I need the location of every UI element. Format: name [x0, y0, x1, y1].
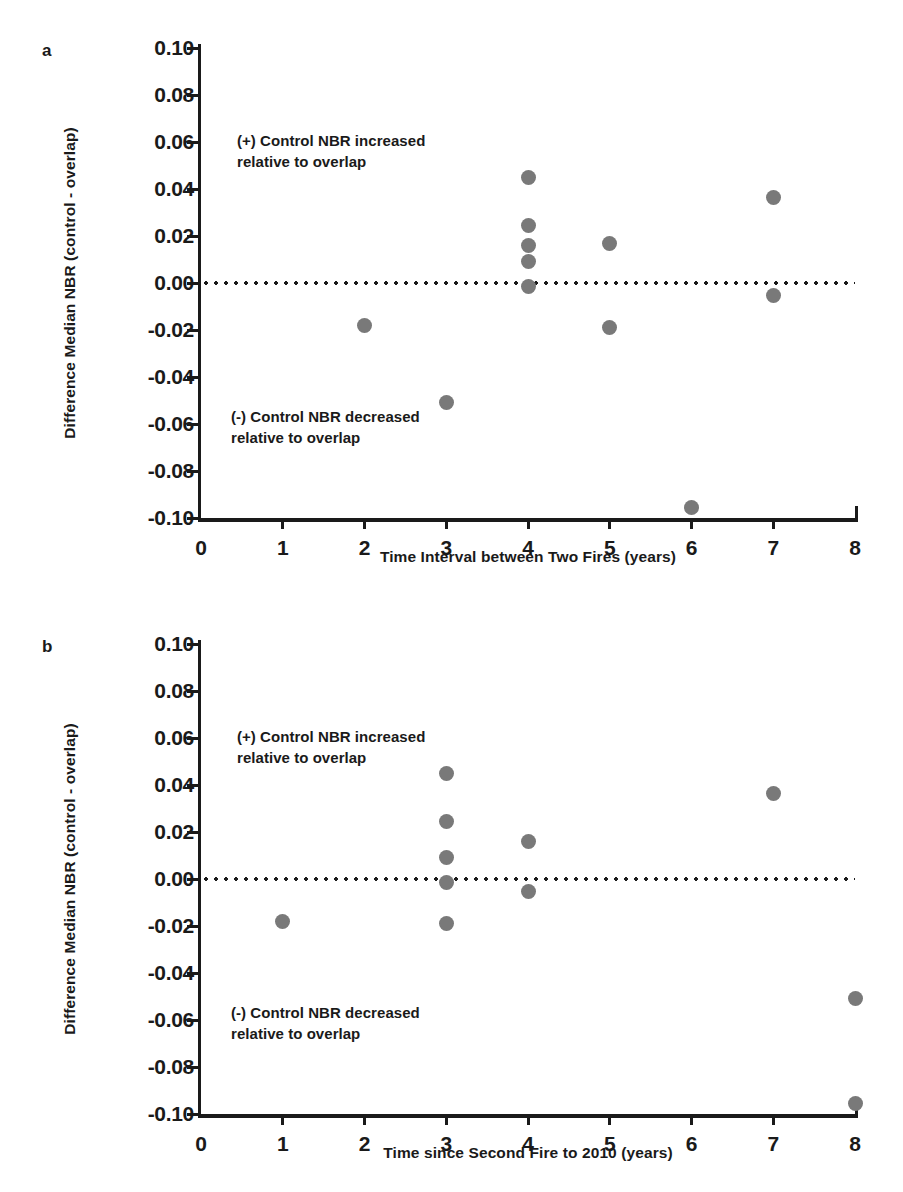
- y-tick-label-b: -0.08: [148, 1055, 194, 1079]
- data-point: [521, 254, 536, 269]
- data-point: [521, 218, 536, 233]
- data-point: [439, 875, 454, 890]
- data-point: [439, 814, 454, 829]
- x-axis-end-cap-a: [855, 506, 858, 520]
- data-point: [439, 916, 454, 931]
- y-tick-label-a: 0.00: [154, 271, 194, 295]
- data-point: [439, 395, 454, 410]
- data-point: [848, 991, 863, 1006]
- x-tick-b: [363, 1114, 366, 1125]
- annotation-positive-a: (+) Control NBR increased relative to ov…: [237, 130, 425, 173]
- x-tick-label-b: 6: [686, 1132, 698, 1156]
- y-tick-label-a: 0.10: [154, 36, 194, 60]
- plot-area-b: (+) Control NBR increased relative to ov…: [201, 644, 855, 1114]
- x-tick-label-a: 8: [849, 536, 861, 560]
- data-point: [439, 766, 454, 781]
- data-point: [684, 500, 699, 515]
- x-tick-a: [772, 518, 775, 529]
- cropped-caption: [40, 1180, 600, 1190]
- x-tick-a: [690, 518, 693, 529]
- y-tick-label-a: 0.04: [154, 177, 194, 201]
- x-tick-a: [445, 518, 448, 529]
- x-tick-label-b: 0: [195, 1132, 207, 1156]
- y-axis-title-a: Difference Median NBR (control - overlap…: [58, 48, 82, 518]
- x-tick-label-a: 2: [359, 536, 371, 560]
- x-tick-a: [527, 518, 530, 529]
- y-tick-label-b: -0.06: [148, 1008, 194, 1032]
- panel-letter-a: a: [42, 42, 51, 59]
- x-tick-label-a: 5: [604, 536, 616, 560]
- figure-scatter-panels: a Difference Median NBR (control - overl…: [0, 0, 903, 1192]
- x-tick-label-a: 0: [195, 536, 207, 560]
- data-point: [521, 834, 536, 849]
- y-tick-label-b: -0.02: [148, 914, 194, 938]
- y-tick-label-b: 0.10: [154, 632, 194, 656]
- x-tick-label-b: 7: [767, 1132, 779, 1156]
- data-point: [439, 850, 454, 865]
- y-axis-title-b: Difference Median NBR (control - overlap…: [58, 644, 82, 1114]
- data-point: [521, 279, 536, 294]
- x-tick-label-b: 3: [440, 1132, 452, 1156]
- y-tick-label-b: 0.00: [154, 867, 194, 891]
- panel-b: b Difference Median NBR (control - overl…: [0, 596, 903, 1192]
- data-point: [766, 786, 781, 801]
- x-tick-b: [690, 1114, 693, 1125]
- data-point: [275, 914, 290, 929]
- y-tick-label-b: 0.08: [154, 679, 194, 703]
- x-tick-label-a: 3: [440, 536, 452, 560]
- x-tick-b: [772, 1114, 775, 1125]
- y-tick-label-a: -0.04: [148, 365, 194, 389]
- y-tick-label-a: 0.06: [154, 130, 194, 154]
- y-tick-label-a: -0.10: [148, 506, 194, 530]
- y-tick-label-b: 0.02: [154, 820, 194, 844]
- y-tick-label-a: -0.08: [148, 459, 194, 483]
- x-tick-label-b: 5: [604, 1132, 616, 1156]
- x-tick-b: [608, 1114, 611, 1125]
- x-tick-b: [527, 1114, 530, 1125]
- x-tick-label-a: 7: [767, 536, 779, 560]
- x-tick-label-a: 4: [522, 536, 534, 560]
- annotation-positive-b: (+) Control NBR increased relative to ov…: [237, 726, 425, 769]
- y-tick-label-b: 0.04: [154, 773, 194, 797]
- y-tick-label-b: -0.10: [148, 1102, 194, 1126]
- x-tick-b: [445, 1114, 448, 1125]
- y-tick-label-a: 0.08: [154, 83, 194, 107]
- panel-a: a Difference Median NBR (control - overl…: [0, 0, 903, 596]
- y-tick-label-b: 0.06: [154, 726, 194, 750]
- y-tick-label-b: -0.04: [148, 961, 194, 985]
- data-point: [521, 884, 536, 899]
- annotation-negative-b: (-) Control NBR decreased relative to ov…: [231, 1002, 420, 1045]
- data-point: [766, 288, 781, 303]
- x-tick-a: [608, 518, 611, 529]
- data-point: [602, 236, 617, 251]
- data-point: [766, 190, 781, 205]
- x-tick-label-b: 4: [522, 1132, 534, 1156]
- x-tick-label-b: 8: [849, 1132, 861, 1156]
- x-tick-label-b: 2: [359, 1132, 371, 1156]
- plot-area-a: (+) Control NBR increased relative to ov…: [201, 48, 855, 518]
- x-tick-label-b: 1: [277, 1132, 289, 1156]
- x-tick-a: [281, 518, 284, 529]
- x-tick-label-a: 6: [686, 536, 698, 560]
- data-point: [521, 238, 536, 253]
- data-point: [521, 170, 536, 185]
- x-tick-label-a: 1: [277, 536, 289, 560]
- y-tick-label-a: 0.02: [154, 224, 194, 248]
- y-tick-label-a: -0.06: [148, 412, 194, 436]
- x-tick-a: [363, 518, 366, 529]
- data-point: [357, 318, 372, 333]
- annotation-negative-a: (-) Control NBR decreased relative to ov…: [231, 406, 420, 449]
- data-point: [602, 320, 617, 335]
- zero-reference-line-b: [201, 877, 855, 881]
- x-tick-b: [281, 1114, 284, 1125]
- data-point: [848, 1096, 863, 1111]
- y-tick-label-a: -0.02: [148, 318, 194, 342]
- panel-letter-b: b: [42, 638, 52, 655]
